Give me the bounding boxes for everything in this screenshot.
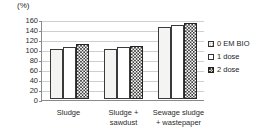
bar <box>184 23 197 99</box>
legend-label: 0 EM BIO <box>217 40 250 48</box>
y-axis-tick: 160 <box>25 17 38 25</box>
y-axis-tick-labels: 160140120100806040200 <box>20 21 39 101</box>
x-axis-category-label: Sewage sludge + wastepaper <box>151 108 206 127</box>
y-axis-tickmark <box>39 81 42 82</box>
legend-swatch-icon <box>208 54 214 60</box>
y-axis-tick: 100 <box>25 47 38 55</box>
x-axis-category-label: Sludge <box>41 108 96 127</box>
legend-swatch-icon <box>208 67 214 73</box>
y-axis-tick: 0 <box>34 97 38 105</box>
plot-wrapper: 160140120100806040200 <box>20 21 206 107</box>
y-axis-tickmark <box>39 91 42 92</box>
y-axis-tickmark <box>39 71 42 72</box>
y-axis-tick: 20 <box>30 87 38 95</box>
legend-item[interactable]: 1 dose <box>208 51 268 62</box>
y-axis-tick: 80 <box>30 57 38 65</box>
bar <box>171 25 184 100</box>
y-axis-tick: 40 <box>30 77 38 85</box>
y-axis-tickmark <box>39 51 42 52</box>
bar-group <box>96 21 150 99</box>
bar-group <box>42 21 96 99</box>
y-axis-tickmark <box>39 41 42 42</box>
legend-item[interactable]: 2 dose <box>208 64 268 75</box>
bar <box>63 47 76 100</box>
bar <box>117 47 130 99</box>
bar-chart: (%) 160140120100806040200 SludgeSludge +… <box>0 0 269 137</box>
y-axis-tick: 120 <box>25 37 38 45</box>
bar <box>158 27 171 100</box>
legend-label: 2 dose <box>217 66 240 74</box>
y-axis-tickmark <box>39 31 42 32</box>
y-axis-tick: 60 <box>30 67 38 75</box>
y-axis-tickmark <box>39 101 42 102</box>
legend-swatch-icon <box>208 41 214 47</box>
plot-area <box>41 21 204 101</box>
chart-legend: 0 EM BIO1 dose2 dose <box>208 38 268 77</box>
x-axis-category-labels: SludgeSludge + sawdustSewage sludge + wa… <box>41 108 206 127</box>
bar <box>50 49 63 99</box>
y-axis-tickmark <box>39 61 42 62</box>
legend-item[interactable]: 0 EM BIO <box>208 38 268 49</box>
bar-group <box>150 21 204 99</box>
legend-label: 1 dose <box>217 53 240 61</box>
y-axis-tickmark <box>39 21 42 22</box>
bar-groups <box>42 21 204 99</box>
y-axis-unit-label: (%) <box>17 1 29 11</box>
bar <box>130 46 143 100</box>
y-axis-tick: 140 <box>25 27 38 35</box>
bar <box>76 44 89 100</box>
x-axis-category-label: Sludge + sawdust <box>96 108 151 127</box>
bar <box>104 49 117 99</box>
